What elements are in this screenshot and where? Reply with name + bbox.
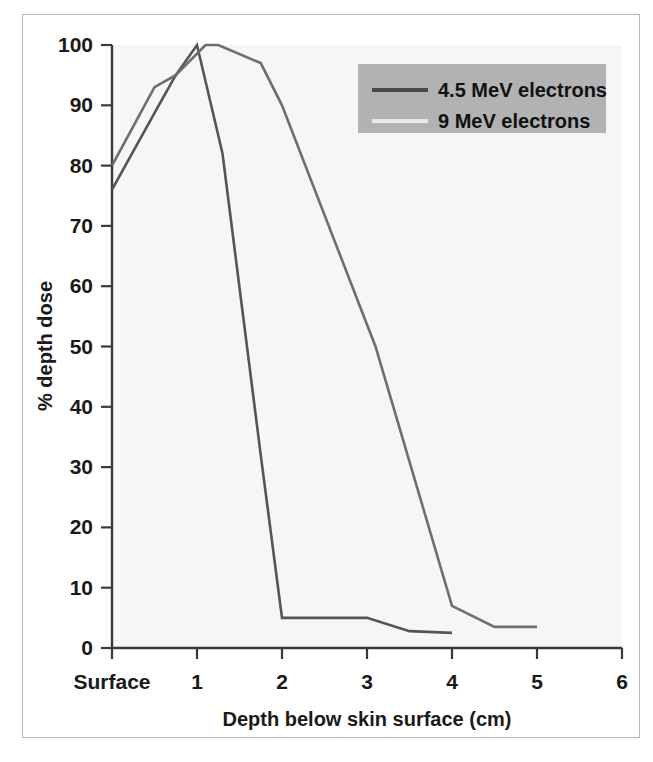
y-tick-label: 90 bbox=[70, 93, 93, 116]
y-tick-label: 40 bbox=[70, 395, 93, 418]
chart-legend: 4.5 MeV electrons9 MeV electrons bbox=[358, 64, 607, 133]
y-tick-label: 0 bbox=[81, 636, 93, 659]
depth-dose-chart: 0102030405060708090100 Surface123456 % d… bbox=[0, 0, 653, 762]
y-tick-label: 30 bbox=[70, 455, 93, 478]
x-tick-label: 4 bbox=[446, 670, 458, 693]
x-tick-label: 6 bbox=[616, 670, 628, 693]
x-axis-tick-labels: Surface123456 bbox=[73, 670, 627, 693]
y-tick-label: 50 bbox=[70, 335, 93, 358]
y-tick-label: 100 bbox=[58, 33, 93, 56]
y-axis-ticks bbox=[101, 45, 112, 648]
y-tick-label: 60 bbox=[70, 274, 93, 297]
x-axis-title: Depth below skin surface (cm) bbox=[223, 708, 512, 730]
x-tick-label: Surface bbox=[73, 670, 150, 693]
x-tick-label: 3 bbox=[361, 670, 373, 693]
y-tick-label: 80 bbox=[70, 154, 93, 177]
x-tick-label: 1 bbox=[191, 670, 203, 693]
x-axis-ticks bbox=[112, 648, 622, 659]
x-tick-label: 5 bbox=[531, 670, 543, 693]
y-tick-label: 10 bbox=[70, 576, 93, 599]
y-axis-tick-labels: 0102030405060708090100 bbox=[58, 33, 93, 659]
legend-label: 4.5 MeV electrons bbox=[438, 79, 607, 101]
x-tick-label: 2 bbox=[276, 670, 288, 693]
legend-label: 9 MeV electrons bbox=[438, 110, 590, 132]
y-tick-label: 70 bbox=[70, 214, 93, 237]
y-axis-title: % depth dose bbox=[34, 281, 56, 411]
plot-background bbox=[112, 45, 622, 648]
y-tick-label: 20 bbox=[70, 515, 93, 538]
figure-container: 0102030405060708090100 Surface123456 % d… bbox=[0, 0, 653, 762]
